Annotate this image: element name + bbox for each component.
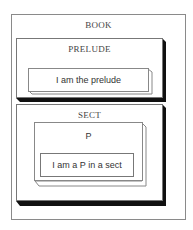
p-label: P [34, 131, 143, 141]
p-text: I am a P in a sect [40, 160, 134, 170]
book-label: BOOK [11, 20, 186, 30]
sect-label: SECT [16, 110, 163, 120]
prelude-label: PRELUDE [16, 44, 163, 54]
prelude-text: I am the prelude [28, 75, 149, 85]
